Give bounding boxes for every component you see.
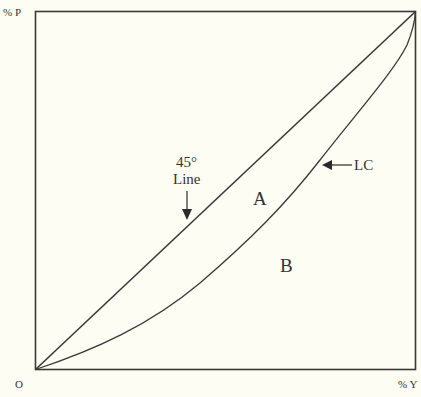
line-45-label-bottom: Line: [173, 172, 201, 187]
region-a-label: A: [253, 189, 267, 208]
origin-label: O: [15, 379, 23, 390]
region-b-label: B: [280, 256, 293, 275]
lorenz-diagram: [0, 0, 421, 397]
line-45-label-top: 45°: [176, 155, 197, 170]
lc-label: LC: [354, 158, 373, 173]
y-axis-label: % P: [3, 7, 21, 18]
arrow-down-icon: [182, 191, 192, 220]
x-axis-label: % Y: [398, 379, 417, 390]
line-45-degree: [36, 12, 416, 370]
arrow-left-icon: [322, 160, 352, 170]
